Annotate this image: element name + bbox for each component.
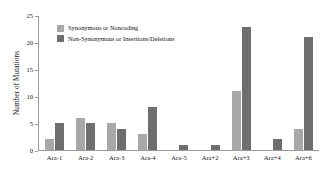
bar (86, 123, 95, 150)
bar-group-araplus3 (226, 16, 257, 150)
x-tick-label: Ara+6 (288, 154, 319, 161)
y-tick-label: 10 (26, 93, 33, 100)
bar (45, 139, 54, 150)
y-tick-label: 15 (26, 66, 33, 73)
bar (55, 123, 64, 150)
bar-group-araplus2 (195, 16, 226, 150)
y-tick-label: 25 (26, 12, 33, 19)
x-tick-label: Ara-1 (39, 154, 70, 161)
bar (294, 129, 303, 150)
bar-group-araplus6 (288, 16, 319, 150)
y-tick-label: 5 (30, 120, 33, 127)
bar (107, 123, 116, 150)
bar (232, 91, 241, 150)
x-tick-label: Ara-2 (70, 154, 101, 161)
legend: Synonymous or Noncoding Non-Synonymous o… (57, 24, 175, 43)
bar (138, 134, 147, 150)
legend-swatch-icon-nonsynonymous (57, 35, 64, 42)
legend-label-nonsynonymous: Non-Synonymous or Insertions/Deletions (68, 35, 175, 43)
bar (304, 37, 313, 150)
x-axis-line (38, 150, 319, 151)
y-tick-mark (35, 16, 38, 17)
y-tick-mark (35, 124, 38, 125)
bar (179, 145, 188, 150)
bar (148, 107, 157, 150)
y-tick-mark (35, 43, 38, 44)
y-tick-mark (35, 97, 38, 98)
legend-item-nonsynonymous: Non-Synonymous or Insertions/Deletions (57, 35, 175, 43)
y-tick-label: 20 (26, 39, 33, 46)
y-tick-label: 0 (30, 147, 33, 154)
y-tick-mark (35, 70, 38, 71)
bar (76, 118, 85, 150)
bar-group-araplus4 (257, 16, 288, 150)
mutations-bar-chart: Number of Mutations 0510152025 Ara-1Ara-… (0, 0, 330, 180)
bar (117, 129, 126, 150)
x-tick-label: Ara+3 (226, 154, 257, 161)
x-tick-label: Ara+4 (257, 154, 288, 161)
legend-item-synonymous: Synonymous or Noncoding (57, 24, 175, 32)
bar (273, 139, 282, 150)
x-tick-label: Ara-5 (163, 154, 194, 161)
y-tick-mark (35, 151, 38, 152)
bar (242, 27, 251, 150)
x-tick-label: Ara-3 (101, 154, 132, 161)
x-tick-label: Ara-4 (132, 154, 163, 161)
legend-label-synonymous: Synonymous or Noncoding (68, 24, 138, 32)
legend-swatch-icon-synonymous (57, 25, 64, 32)
x-tick-label: Ara+2 (195, 154, 226, 161)
x-axis-tick-labels: Ara-1Ara-2Ara-3Ara-4Ara-5Ara+2Ara+3Ara+4… (39, 154, 319, 161)
bar (211, 145, 220, 150)
y-axis-title: Number of Mutations (10, 18, 24, 148)
